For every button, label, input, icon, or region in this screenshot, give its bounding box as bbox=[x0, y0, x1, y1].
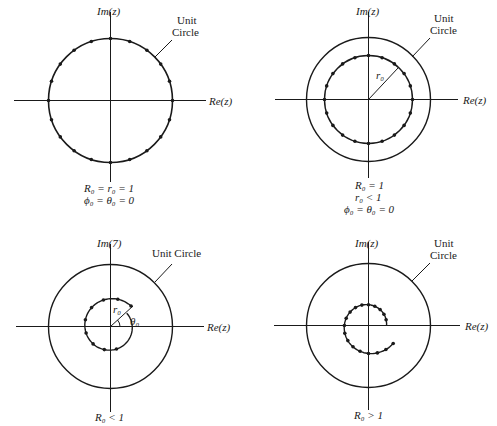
sample-point bbox=[168, 118, 172, 122]
unit-circle-pointer bbox=[412, 263, 430, 281]
sample-point bbox=[128, 158, 132, 162]
sample-point bbox=[367, 54, 371, 58]
sample-point bbox=[72, 49, 76, 53]
sample-point bbox=[354, 306, 358, 310]
sample-point bbox=[341, 133, 345, 137]
sample-point bbox=[358, 350, 362, 354]
imag-axis-label: Im(z) bbox=[355, 237, 378, 249]
angle-arc bbox=[118, 320, 121, 327]
caption-line: R₀ = r₀ = 1 bbox=[84, 182, 134, 194]
sample-point bbox=[367, 303, 371, 307]
sample-point bbox=[393, 133, 397, 137]
imag-axis-label: Im(z) bbox=[356, 5, 379, 17]
z-plane-diagram bbox=[0, 0, 497, 426]
sample-point bbox=[159, 135, 163, 139]
caption-line: ϕ₀ = θ₀ = 0 bbox=[84, 194, 134, 206]
sample-point bbox=[411, 98, 415, 102]
sample-point bbox=[159, 62, 163, 66]
sample-point bbox=[115, 347, 119, 351]
real-axis-label: Re(z) bbox=[463, 94, 486, 106]
caption-line: R₀ < 1 bbox=[95, 411, 124, 423]
sample-point bbox=[116, 297, 120, 301]
sample-point bbox=[360, 303, 364, 307]
sample-point bbox=[90, 158, 94, 162]
unit-circle-label-line1: Unit bbox=[434, 12, 454, 24]
sample-point bbox=[409, 111, 413, 115]
sample-point bbox=[348, 310, 352, 314]
sample-point bbox=[168, 80, 172, 84]
sample-point bbox=[402, 124, 406, 128]
sample-point bbox=[50, 80, 54, 84]
sample-point bbox=[103, 348, 107, 352]
real-axis-label: Re(z) bbox=[209, 95, 232, 107]
unit-circle-label: Unit Circle bbox=[152, 247, 201, 259]
panel-bottom-left bbox=[16, 244, 204, 412]
sample-point bbox=[171, 99, 175, 103]
unit-circle-label-line1: Unit bbox=[434, 237, 454, 249]
radius-label: r₀ bbox=[376, 69, 384, 81]
sample-point bbox=[341, 62, 345, 66]
sample-point bbox=[325, 111, 329, 115]
sample-point bbox=[109, 161, 113, 165]
unit-circle-pointer bbox=[155, 264, 172, 282]
unit-circle-pointer bbox=[412, 38, 430, 57]
sample-point bbox=[393, 62, 397, 66]
sample-point bbox=[91, 342, 95, 346]
sample-point bbox=[384, 348, 388, 352]
sample-point bbox=[376, 351, 380, 355]
sample-point bbox=[353, 56, 357, 60]
sample-point bbox=[409, 84, 413, 88]
panel-bottom-right bbox=[274, 242, 460, 410]
sample-point bbox=[84, 318, 88, 322]
sample-point bbox=[384, 318, 388, 322]
unit-circle-label-line2: Circle bbox=[430, 249, 457, 261]
sample-point bbox=[378, 308, 382, 312]
sample-point bbox=[353, 140, 357, 144]
unit-circle-pointer bbox=[155, 40, 172, 57]
sample-point bbox=[331, 124, 335, 128]
sample-point bbox=[367, 352, 371, 356]
imag-axis-label: Im(z) bbox=[97, 5, 120, 17]
real-axis-label: Re(z) bbox=[465, 320, 488, 332]
unit-circle-label-line2: Circle bbox=[172, 26, 199, 38]
sample-point bbox=[50, 118, 54, 122]
sample-point bbox=[380, 56, 384, 60]
caption-line: R₀ > 1 bbox=[354, 409, 383, 421]
sample-point bbox=[323, 98, 327, 102]
sample-point bbox=[109, 37, 113, 41]
angle-label: θ₀ bbox=[130, 315, 139, 327]
sample-point bbox=[129, 304, 133, 308]
sample-point bbox=[102, 298, 106, 302]
sample-point bbox=[391, 342, 395, 346]
unit-circle-label-line2: Circle bbox=[430, 24, 457, 36]
sample-point bbox=[351, 345, 355, 349]
sample-point bbox=[59, 135, 63, 139]
sample-point bbox=[380, 140, 384, 144]
real-axis-label: Re(z) bbox=[207, 321, 230, 333]
sample-point bbox=[145, 49, 149, 53]
sample-point bbox=[382, 313, 386, 317]
sample-point bbox=[72, 149, 76, 153]
caption-line: ϕ₀ = θ₀ = 0 bbox=[344, 203, 394, 215]
radius-label: r₀ bbox=[113, 303, 121, 315]
sample-point bbox=[343, 324, 347, 328]
sample-point bbox=[343, 331, 347, 335]
sample-point bbox=[331, 72, 335, 76]
imag-axis-label: Im(7) bbox=[97, 237, 121, 249]
sample-point bbox=[402, 72, 406, 76]
sample-point bbox=[90, 306, 94, 310]
sample-point bbox=[84, 331, 88, 335]
sample-point bbox=[344, 317, 348, 321]
caption-line: r₀ < 1 bbox=[355, 191, 382, 203]
sample-point bbox=[47, 99, 51, 103]
unit-circle-label-line1: Unit bbox=[177, 14, 197, 26]
sample-point bbox=[59, 62, 63, 66]
sample-point bbox=[128, 40, 132, 44]
sample-point bbox=[90, 40, 94, 44]
sample-point bbox=[145, 149, 149, 153]
sample-point bbox=[367, 142, 371, 146]
sample-point bbox=[325, 84, 329, 88]
panel-top-right bbox=[275, 12, 458, 178]
sample-point bbox=[346, 339, 350, 343]
sample-point bbox=[373, 304, 377, 308]
